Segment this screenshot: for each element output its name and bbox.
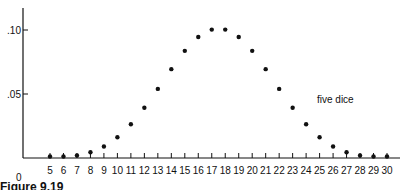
data-point xyxy=(169,67,173,71)
data-point xyxy=(156,87,160,91)
data-point xyxy=(48,154,52,158)
x-ticks: 5678910111213141516171819202122232425262… xyxy=(47,153,393,176)
data-point xyxy=(304,122,308,126)
x-tick-label: 24 xyxy=(301,165,313,176)
data-point xyxy=(237,35,241,39)
x-tick-label: 20 xyxy=(247,165,259,176)
x-tick-label: 19 xyxy=(233,165,245,176)
x-tick-label: 5 xyxy=(47,165,53,176)
x-tick-label: 10 xyxy=(112,165,124,176)
figure-caption: Figure 9.19 xyxy=(0,180,63,190)
x-tick-label: 26 xyxy=(328,165,340,176)
data-point xyxy=(223,27,227,31)
data-point xyxy=(142,106,146,110)
x-tick-label: 6 xyxy=(61,165,67,176)
x-tick-label: 25 xyxy=(314,165,326,176)
y-tick-label: .10 xyxy=(7,25,21,36)
data-point xyxy=(75,153,79,157)
data-point xyxy=(196,35,200,39)
x-tick-label: 15 xyxy=(179,165,191,176)
probability-chart: .05.10 567891011121314151617181920212223… xyxy=(0,0,409,190)
data-point xyxy=(129,122,133,126)
x-tick-label: 29 xyxy=(368,165,380,176)
data-point xyxy=(358,153,362,157)
x-tick-label: 27 xyxy=(341,165,353,176)
x-tick-label: 16 xyxy=(193,165,205,176)
data-point xyxy=(263,67,267,71)
data-point xyxy=(331,144,335,148)
data-point xyxy=(88,150,92,154)
data-point xyxy=(344,150,348,154)
y-tick-label: .05 xyxy=(7,89,21,100)
data-point xyxy=(250,49,254,53)
data-point xyxy=(277,87,281,91)
x-tick-label: 18 xyxy=(220,165,232,176)
data-point xyxy=(371,154,375,158)
x-tick-label: 28 xyxy=(354,165,366,176)
x-tick-label: 11 xyxy=(126,165,137,176)
series-annotation: five dice xyxy=(317,94,354,105)
x-tick-label: 17 xyxy=(206,165,218,176)
data-point xyxy=(61,154,65,158)
x-tick-label: 12 xyxy=(139,165,151,176)
x-tick-label: 21 xyxy=(260,165,272,176)
x-tick-label: 7 xyxy=(74,165,80,176)
x-tick-label: 13 xyxy=(152,165,164,176)
x-tick-label: 14 xyxy=(166,165,178,176)
data-point xyxy=(290,106,294,110)
data-point xyxy=(210,27,214,31)
y-ticks: .05.10 xyxy=(7,25,28,100)
data-point xyxy=(183,49,187,53)
x-tick-label: 9 xyxy=(101,165,107,176)
x-tick-label: 30 xyxy=(381,165,393,176)
x-tick-label: 22 xyxy=(274,165,286,176)
data-point xyxy=(102,144,106,148)
data-point xyxy=(317,135,321,139)
data-point xyxy=(385,154,389,158)
data-point xyxy=(115,135,119,139)
x-tick-label: 8 xyxy=(88,165,94,176)
x-tick-label: 23 xyxy=(287,165,299,176)
